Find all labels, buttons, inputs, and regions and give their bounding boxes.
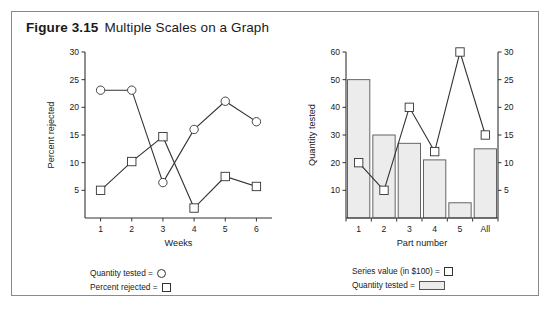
bar <box>373 135 395 218</box>
secondary-y-axis-tick-label: 15 <box>504 130 514 140</box>
figure-frame: Figure 3.15Multiple Scales on a Graph 51… <box>11 11 539 296</box>
bar-series <box>348 80 497 218</box>
x-axis-tick-label: 5 <box>458 224 463 234</box>
x-axis-tick-label: 5 <box>223 224 228 234</box>
square-marker-icon <box>380 186 388 194</box>
legend-item: Quantity tested = <box>90 266 171 280</box>
y-axis-tick-label: 15 <box>69 130 79 140</box>
square-marker-icon <box>128 157 136 165</box>
secondary-y-axis-tick-label: 25 <box>504 75 514 85</box>
y-axis-tick-label: 5 <box>74 185 79 195</box>
square-marker-icon <box>221 172 229 180</box>
square-marker-icon <box>190 204 198 212</box>
legend-item-label: Percent rejected = <box>90 280 158 294</box>
legend-item: Series value (in $100) = <box>352 264 453 278</box>
x-axis-tick-label: 2 <box>129 224 134 234</box>
legend-item: Quantity tested = <box>352 278 453 292</box>
square-marker-icon <box>481 131 489 139</box>
y-axis-tick-label: 40 <box>330 102 340 112</box>
secondary-y-axis-tick-label: 5 <box>504 185 509 195</box>
series-square <box>96 132 260 212</box>
circle-marker-icon <box>221 97 229 105</box>
secondary-y-axis-tick-label: 30 <box>504 47 514 57</box>
square-marker-icon <box>252 182 260 190</box>
y-axis-tick-label: 30 <box>69 47 79 57</box>
x-axis-tick-label: All <box>481 224 491 234</box>
right-chart-legend: Series value (in $100) = Quantity tested… <box>352 264 453 292</box>
square-marker-icon <box>444 267 453 276</box>
x-axis-tick-label: 3 <box>161 224 166 234</box>
figure-title-text: Multiple Scales on a Graph <box>104 20 269 35</box>
figure-caption: Figure 3.15Multiple Scales on a Graph <box>26 20 269 35</box>
right-chart-plot: 1020304050605101520253012345AllPart numb… <box>302 42 540 252</box>
bar <box>348 80 370 218</box>
left-chart-plot: 51015202530123456WeeksPercent rejected <box>40 42 280 252</box>
y-axis-tick-label: 30 <box>330 130 340 140</box>
left-chart-legend: Quantity tested = Percent rejected = <box>90 266 171 294</box>
x-axis-label: Weeks <box>165 238 193 248</box>
y-axis-label: Percent rejected <box>46 102 56 169</box>
circle-marker-icon <box>128 86 136 94</box>
bar <box>449 203 471 218</box>
x-axis-tick-label: 4 <box>432 224 437 234</box>
x-axis-label: Part number <box>397 238 448 248</box>
x-axis-tick-label: 3 <box>407 224 412 234</box>
square-marker-icon <box>456 48 464 56</box>
x-axis-tick-label: 2 <box>382 224 387 234</box>
x-axis-tick-label: 6 <box>254 224 259 234</box>
circle-marker-icon <box>252 118 260 126</box>
square-marker-icon <box>159 132 167 140</box>
circle-marker-icon <box>96 86 104 94</box>
legend-item-label: Quantity tested = <box>90 266 153 280</box>
square-marker-icon <box>430 147 438 155</box>
x-axis-tick-label: 4 <box>192 224 197 234</box>
bar-swatch-icon <box>419 281 445 290</box>
figure-number: Figure 3.15 <box>26 20 98 35</box>
secondary-y-axis-tick-label: 20 <box>504 102 514 112</box>
legend-item-label: Series value (in $100) = <box>352 264 440 278</box>
y-axis-tick-label: 20 <box>69 102 79 112</box>
legend-item-label: Quantity tested = <box>352 278 415 292</box>
y-axis-label: Quantity tested <box>307 104 317 166</box>
circle-marker-icon <box>190 125 198 133</box>
legend-item: Percent rejected = <box>90 280 171 294</box>
y-axis-tick-label: 60 <box>330 47 340 57</box>
bar <box>398 143 420 218</box>
bar <box>424 160 446 218</box>
x-axis-tick-label: 1 <box>356 224 361 234</box>
secondary-y-axis-tick-label: 10 <box>504 158 514 168</box>
right-chart-panel: 1020304050605101520253012345AllPart numb… <box>302 42 540 282</box>
y-axis-tick-label: 10 <box>330 185 340 195</box>
bar <box>474 149 496 218</box>
y-axis-tick-label: 50 <box>330 75 340 85</box>
y-axis-tick-label: 20 <box>330 158 340 168</box>
y-axis-tick-label: 25 <box>69 75 79 85</box>
circle-marker-icon <box>157 269 166 278</box>
series-line <box>101 137 257 208</box>
circle-marker-icon <box>159 178 167 186</box>
square-marker-icon <box>96 186 104 194</box>
square-marker-icon <box>354 158 362 166</box>
left-chart-panel: 51015202530123456WeeksPercent rejected <box>40 42 280 282</box>
y-axis-tick-label: 10 <box>69 158 79 168</box>
square-marker-icon <box>162 283 171 292</box>
x-axis-tick-label: 1 <box>98 224 103 234</box>
square-marker-icon <box>405 103 413 111</box>
